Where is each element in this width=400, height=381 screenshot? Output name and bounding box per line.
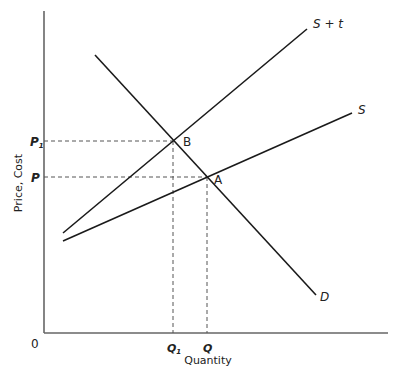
supply-demand-diagram: S + t S D B A P1 P Q1 Q 0 Quantity Price… [0,0,400,381]
supply-label: S [358,103,366,117]
demand-curve [95,55,316,295]
supply-plus-tax-label: S + t [313,17,344,31]
quantity-q1-label: Q1 [167,342,181,356]
price-p1-label: P1 [30,135,44,150]
point-b-label: B [183,135,191,149]
price-p-label: P [31,171,40,185]
demand-label: D [320,290,329,304]
x-axis-label: Quantity [184,354,232,367]
y-axis-label: Price, Cost [12,153,25,212]
point-a-label: A [214,173,223,187]
origin-label: 0 [31,337,39,351]
